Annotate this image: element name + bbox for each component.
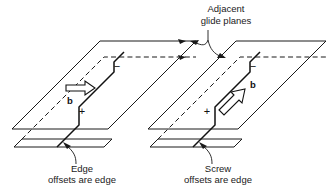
left-burgers-label: b [67, 95, 73, 106]
diagram-canvas: b + − Edge offsets are edge [0, 0, 332, 188]
right-positive-sign: + [204, 105, 210, 117]
left-upper-glide-plane [12, 41, 196, 129]
left-caption-line2: offsets are edge [48, 174, 116, 185]
left-unit-group: b + − Edge offsets are edge [12, 41, 196, 185]
adjacent-glide-planes-callout: Adjacent glide planes [178, 3, 252, 60]
adjacent-glide-planes-label-line2: glide planes [201, 15, 252, 26]
left-caption-leader-arrowhead [63, 142, 71, 149]
dislocation-glide-plane-diagram: b + − Edge offsets are edge [0, 0, 332, 188]
callout-arrowhead-upper-left-plane [178, 39, 186, 44]
adjacent-glide-planes-label-line1: Adjacent [208, 3, 245, 14]
left-caption-line1: Edge [71, 163, 93, 174]
right-burgers-vector-arrow [219, 89, 245, 115]
right-burgers-label: b [250, 79, 256, 90]
left-negative-sign: − [114, 60, 120, 72]
right-caption-line2: offsets are edge [184, 174, 252, 185]
right-caption-leader-arrowhead [199, 142, 207, 149]
right-caption-line1: Screw [205, 163, 232, 174]
callout-arrowhead-lower-left-plane [178, 55, 186, 60]
left-burgers-vector-arrow [66, 81, 95, 95]
right-negative-sign: − [250, 60, 256, 72]
left-positive-sign: + [79, 105, 85, 117]
